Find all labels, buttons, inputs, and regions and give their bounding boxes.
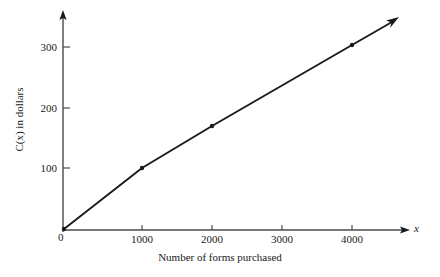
x-tick-label-2000: 2000 (201, 234, 223, 245)
x-tick-label-1000: 1000 (131, 234, 153, 245)
y-tick-label-200: 200 (29, 103, 57, 114)
data-point-1000 (140, 166, 144, 170)
x-axis-variable-label: x (414, 223, 419, 234)
x-tick-label-4000: 4000 (341, 234, 363, 245)
cost-curve-arrowhead (386, 17, 399, 28)
cost-curve (64, 22, 392, 229)
origin-tick-label: 0 (58, 232, 64, 243)
x-axis-title: Number of forms purchased (0, 252, 440, 263)
y-tick-label-300: 300 (29, 42, 57, 53)
y-tick-label-100: 100 (29, 163, 57, 174)
x-tick-label-3000: 3000 (271, 234, 293, 245)
y-axis-title: C(x) in dollars (14, 60, 25, 180)
data-point-2000 (210, 124, 214, 128)
data-point-4000 (350, 43, 354, 47)
cost-function-chart: 0 1000 2000 3000 4000 100 200 300 x Numb… (0, 0, 440, 277)
